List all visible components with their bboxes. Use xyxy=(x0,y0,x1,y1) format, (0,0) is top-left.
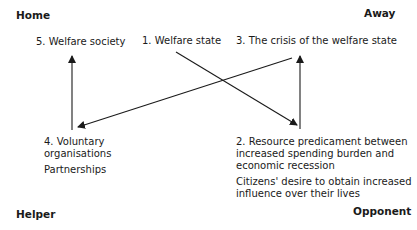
arrow-crisis-to-voluntary xyxy=(78,58,292,127)
arrows-layer xyxy=(0,0,417,230)
arrow-welfare-state-to-resource xyxy=(176,52,297,125)
